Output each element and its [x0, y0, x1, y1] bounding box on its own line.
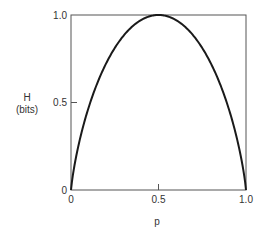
y-axis-label-bits: (bits): [16, 104, 38, 115]
entropy-chart: 00.51.000.51.0 H (bits) p: [0, 0, 262, 235]
x-axis-label: p: [154, 216, 160, 227]
y-tick-label: 1.0: [53, 10, 67, 21]
entropy-curve: [71, 15, 246, 190]
y-tick-label: 0: [61, 185, 67, 196]
y-tick-label: 0.5: [53, 97, 67, 108]
x-tick-label: 0: [68, 194, 74, 205]
plot-frame: [71, 15, 246, 190]
x-tick-label: 1.0: [239, 194, 253, 205]
x-tick-label: 0.5: [152, 194, 166, 205]
y-axis-label-h: H: [23, 92, 30, 103]
